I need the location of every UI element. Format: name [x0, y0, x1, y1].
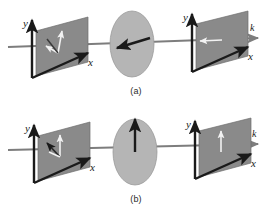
- subfigure-a: y x y x k: [8, 11, 258, 78]
- label-y-a-left: y: [22, 17, 28, 29]
- label-x-b-left: x: [89, 161, 95, 173]
- transmitted-field-arrow-a: [200, 40, 222, 41]
- label-x-a-right: x: [247, 50, 253, 62]
- figure-container: y x y x k: [0, 0, 274, 217]
- label-k-b: k: [252, 128, 257, 139]
- caption-a: (a): [116, 86, 156, 96]
- label-x-a-left: x: [87, 56, 93, 68]
- polarizer-b: [113, 119, 157, 185]
- polarizer-a: [110, 11, 154, 77]
- label-y-a-right: y: [182, 11, 188, 23]
- label-y-b-right: y: [185, 118, 191, 130]
- left-plane-a: [32, 17, 88, 78]
- right-plane-a: [192, 11, 248, 72]
- polarization-diagram: y x y x k: [0, 0, 274, 217]
- label-y-b-left: y: [24, 122, 30, 134]
- subfigure-b: y x y x k: [8, 118, 258, 185]
- label-k-a: k: [250, 22, 255, 33]
- label-x-b-right: x: [250, 157, 256, 169]
- left-plane-b: [34, 122, 90, 183]
- right-plane-b: [195, 118, 251, 179]
- caption-b: (b): [116, 194, 156, 204]
